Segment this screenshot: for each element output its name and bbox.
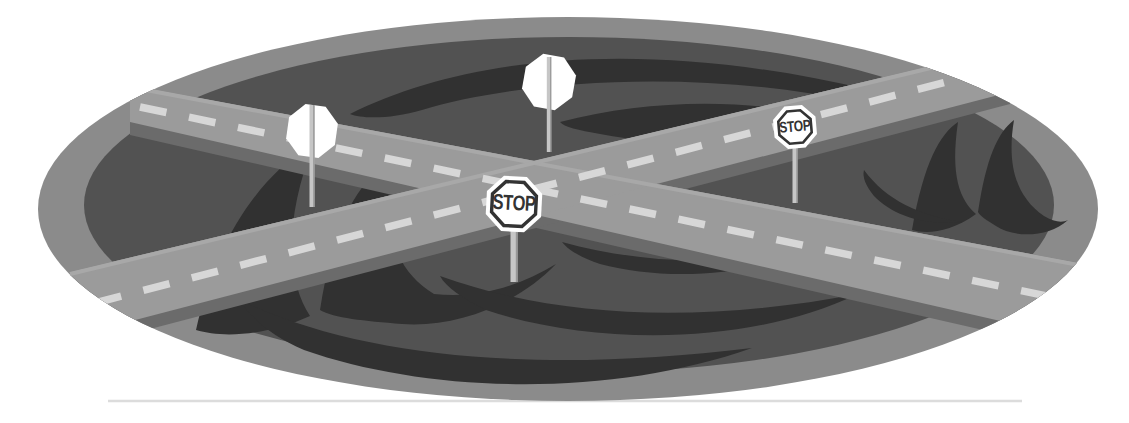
- crossroads-canvas: STOP STOP: [0, 0, 1129, 423]
- sign-pole-shade: [313, 105, 314, 207]
- sign-pole-shade: [516, 228, 518, 282]
- crossroads-illustration: STOP STOP: [0, 0, 1129, 423]
- sign-pole-shade: [550, 57, 551, 152]
- stop-label: STOP: [779, 117, 812, 136]
- sign-pole-shade: [796, 145, 797, 203]
- stop-label: STOP: [492, 190, 537, 216]
